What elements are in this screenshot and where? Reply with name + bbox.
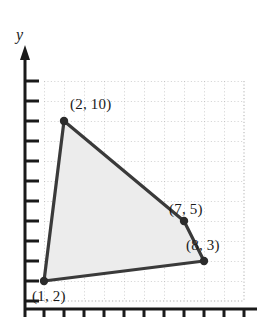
vertex-7-5 — [180, 217, 188, 225]
point-label-8-3: (8, 3) — [186, 237, 220, 254]
vertex-1-2 — [40, 277, 48, 285]
y-axis-arrow-icon — [20, 45, 30, 60]
point-label-7-5: (7, 5) — [169, 201, 203, 218]
point-label-1-2: (1, 2) — [32, 288, 66, 305]
vertex-2-10 — [60, 117, 68, 125]
y-axis-ticks — [25, 81, 39, 301]
x-axis — [25, 309, 257, 317]
plot-svg — [0, 0, 257, 317]
y-axis — [20, 45, 39, 317]
coordinate-plane-figure: y (2, 10) (7, 5) (8, 3) (1, 2) — [0, 0, 257, 317]
vertex-8-3 — [200, 257, 208, 265]
point-label-2-10: (2, 10) — [70, 96, 111, 113]
y-axis-label: y — [16, 26, 23, 44]
